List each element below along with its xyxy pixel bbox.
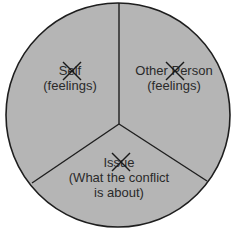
sector-self-label: Self (feelings) [30,63,110,93]
sector-self-title: Self [30,63,110,78]
title-part: S [59,63,68,78]
title-part: erson [180,63,213,78]
sector-issue-subtitle-2: is about) [57,185,181,200]
crossed-segment: su [114,155,128,170]
title-part: f [78,63,82,78]
title-part: e [127,155,134,170]
crossed-segment: el [67,63,77,78]
conflict-circle-diagram [0,0,234,242]
title-part: su [114,155,128,170]
sector-other-person-title: Other Person [124,63,224,78]
sector-issue-title: Issue [57,155,181,170]
sector-other-person-label: Other Person (feelings) [124,63,224,93]
crossed-segment: P [171,63,180,78]
title-part: P [171,63,180,78]
sector-issue-label: Issue (What the conflict is about) [57,155,181,200]
sector-issue-subtitle-1: (What the conflict [57,170,181,185]
sector-self-subtitle: (feelings) [30,78,110,93]
title-part: Is [103,155,113,170]
title-part: el [67,63,77,78]
sector-other-person-subtitle: (feelings) [124,78,224,93]
title-part: Other [135,63,171,78]
